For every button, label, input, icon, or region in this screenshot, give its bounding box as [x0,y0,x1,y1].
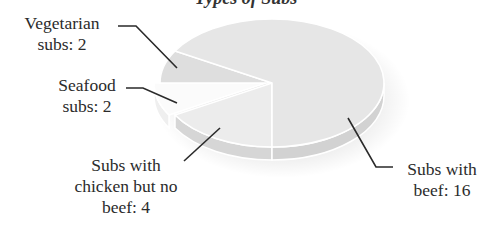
label-seafood: Seafood subs: 2 [52,75,122,117]
label-vegetarian: Vegetarian subs: 2 [12,13,112,55]
label-beef: Subs with beef: 16 [396,159,488,201]
label-chicken: Subs with chicken but no beef: 4 [66,155,186,218]
